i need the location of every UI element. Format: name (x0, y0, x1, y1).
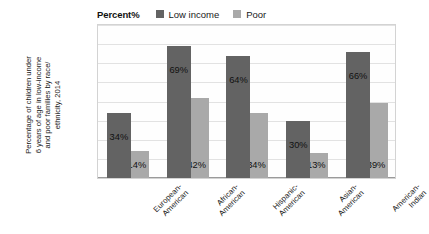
x-axis-category-label: Asian-American (330, 182, 366, 218)
bar-low-income[interactable]: 34% (107, 113, 131, 178)
square-swatch-icon (156, 10, 164, 18)
bar-group: 42%69% (158, 25, 218, 178)
bar-low-income[interactable]: 66% (346, 52, 370, 178)
y-axis-title-line: Percentage of children under (24, 29, 34, 181)
chart-header: Percent% Low incomePoor (97, 6, 280, 22)
y-axis-title: Percentage of children under6 years of a… (18, 26, 68, 184)
y-axis-title-line: ethnicity, 2014 (53, 29, 63, 181)
bar-value-label: 34% (107, 132, 131, 142)
y-axis-title-line: and poor families by race/ (43, 29, 53, 181)
bar-group: 34%64% (218, 25, 278, 178)
plot-area: 8070605040302010014%34%42%69%34%64%13%30… (97, 24, 396, 179)
bar-group: 39%66% (337, 25, 396, 178)
x-axis-category-label: Hispanic-American (270, 182, 306, 218)
bar-low-income[interactable]: 64% (226, 56, 250, 178)
bar-value-label: 30% (286, 140, 310, 150)
square-swatch-icon (233, 10, 241, 18)
x-axis-labels: European-AmericanAfrican-AmericanHispani… (97, 182, 396, 234)
x-axis-category-label: European-American (152, 182, 191, 221)
bar-group: 13%30% (277, 25, 337, 178)
legend-label: Poor (246, 9, 266, 20)
plot-wrapper: 8070605040302010014%34%42%69%34%64%13%30… (97, 24, 396, 179)
y-axis-tick-mark (97, 179, 98, 180)
bar-low-income[interactable]: 69% (167, 46, 191, 178)
y-axis-title-line: 6 years of age in low-income (33, 29, 43, 181)
legend-label: Low income (169, 9, 220, 20)
bar-group: 14%34% (98, 25, 158, 178)
legend-item[interactable]: Low income (156, 9, 220, 20)
chart-legend: Low incomePoor (156, 9, 281, 20)
legend-item[interactable]: Poor (233, 9, 266, 20)
x-axis-category-label: African-American (210, 182, 246, 218)
bar-low-income[interactable]: 30% (286, 121, 310, 178)
bar-value-label: 69% (167, 65, 191, 75)
bar-value-label: 66% (346, 71, 370, 81)
x-axis-category-label: American-Indian (391, 182, 429, 220)
chart-title: Percent% (97, 9, 140, 20)
bar-value-label: 64% (226, 75, 250, 85)
